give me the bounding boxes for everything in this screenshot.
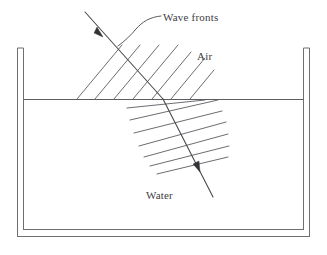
wavefront-water-7 xyxy=(157,157,228,174)
wavefront-water-4 xyxy=(139,122,226,146)
wavefronts-air-group xyxy=(77,45,214,99)
water-label: Water xyxy=(146,189,173,201)
wavefront-air-7 xyxy=(190,70,214,99)
wave-fronts-leader-line xyxy=(118,16,161,46)
refracted-ray-group xyxy=(163,99,213,197)
air-label: Air xyxy=(197,50,212,62)
wavefront-air-2 xyxy=(95,45,140,99)
tank-group xyxy=(18,48,310,237)
wavefront-water-5 xyxy=(144,134,228,157)
refracted-ray-arrowhead xyxy=(193,161,200,172)
wave-refraction-diagram: Wave fronts Air Water xyxy=(0,0,327,255)
incident-ray-arrowhead xyxy=(94,27,103,37)
wavefront-air-5 xyxy=(152,52,191,99)
wavefront-water-6 xyxy=(150,146,229,166)
diagram-canvas xyxy=(0,0,327,255)
wave-fronts-label: Wave fronts xyxy=(163,11,218,23)
wavefronts-water-group xyxy=(127,100,229,174)
incident-ray xyxy=(85,12,163,99)
wavefront-air-1 xyxy=(77,45,122,99)
refracted-ray xyxy=(163,99,213,197)
wavefront-air-3 xyxy=(114,45,159,99)
wavefront-air-6 xyxy=(171,58,205,99)
wavefront-water-3 xyxy=(134,111,222,133)
incident-ray-group xyxy=(85,12,163,99)
